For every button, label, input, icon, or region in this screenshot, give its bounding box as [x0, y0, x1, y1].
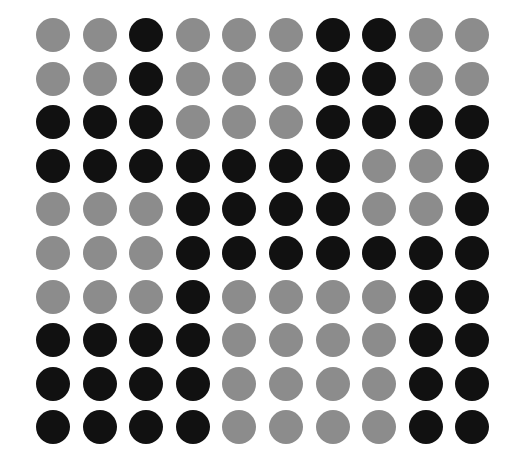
dot-gray: [362, 149, 396, 183]
dot-gray: [316, 280, 350, 314]
dot-black: [83, 323, 117, 357]
dot-black: [83, 410, 117, 444]
dot-black: [409, 236, 443, 270]
dot-black: [176, 280, 210, 314]
dot-gray: [316, 323, 350, 357]
dot-black: [455, 367, 489, 401]
dot-black: [36, 323, 70, 357]
dot-black: [455, 410, 489, 444]
dot-black: [316, 62, 350, 96]
dot-gray: [362, 323, 396, 357]
dot-gray: [409, 149, 443, 183]
dot-black: [36, 367, 70, 401]
dot-gray: [269, 280, 303, 314]
dot-gray: [129, 192, 163, 226]
dot-gray: [269, 323, 303, 357]
dot-black: [129, 323, 163, 357]
dot-black: [83, 367, 117, 401]
dot-gray: [455, 62, 489, 96]
dot-grid: [0, 0, 521, 461]
dot-black: [409, 367, 443, 401]
dot-black: [409, 280, 443, 314]
dot-black: [176, 323, 210, 357]
dot-black: [129, 149, 163, 183]
dot-black: [269, 236, 303, 270]
dot-gray: [362, 280, 396, 314]
dot-black: [455, 149, 489, 183]
dot-gray: [316, 410, 350, 444]
dot-black: [129, 367, 163, 401]
dot-black: [83, 149, 117, 183]
dot-gray: [269, 105, 303, 139]
dot-black: [362, 18, 396, 52]
dot-black: [316, 149, 350, 183]
dot-black: [409, 323, 443, 357]
dot-gray: [36, 236, 70, 270]
dot-gray: [83, 18, 117, 52]
dot-gray: [316, 367, 350, 401]
dot-black: [455, 105, 489, 139]
dot-gray: [222, 105, 256, 139]
dot-black: [455, 192, 489, 226]
dot-black: [176, 149, 210, 183]
dot-gray: [36, 192, 70, 226]
dot-gray: [176, 105, 210, 139]
dot-gray: [222, 280, 256, 314]
dot-black: [129, 62, 163, 96]
dot-black: [316, 236, 350, 270]
dot-black: [362, 105, 396, 139]
dot-gray: [222, 367, 256, 401]
dot-gray: [83, 192, 117, 226]
dot-black: [316, 18, 350, 52]
dot-black: [409, 410, 443, 444]
dot-gray: [409, 62, 443, 96]
dot-gray: [222, 410, 256, 444]
dot-black: [176, 367, 210, 401]
dot-gray: [409, 192, 443, 226]
dot-gray: [36, 18, 70, 52]
dot-black: [176, 410, 210, 444]
dot-gray: [36, 280, 70, 314]
dot-gray: [129, 280, 163, 314]
dot-gray: [362, 410, 396, 444]
dot-black: [129, 105, 163, 139]
dot-gray: [362, 367, 396, 401]
dot-gray: [83, 236, 117, 270]
dot-gray: [269, 62, 303, 96]
dot-black: [83, 105, 117, 139]
dot-gray: [409, 18, 443, 52]
dot-black: [455, 236, 489, 270]
dot-black: [222, 192, 256, 226]
dot-gray: [83, 62, 117, 96]
dot-black: [455, 323, 489, 357]
dot-gray: [222, 323, 256, 357]
dot-black: [129, 410, 163, 444]
dot-black: [455, 280, 489, 314]
dot-gray: [362, 192, 396, 226]
dot-gray: [222, 62, 256, 96]
dot-black: [269, 192, 303, 226]
dot-black: [316, 105, 350, 139]
dot-black: [222, 149, 256, 183]
dot-black: [36, 105, 70, 139]
dot-gray: [83, 280, 117, 314]
dot-gray: [222, 18, 256, 52]
dot-gray: [176, 18, 210, 52]
dot-black: [129, 18, 163, 52]
dot-gray: [36, 62, 70, 96]
dot-gray: [129, 236, 163, 270]
dot-gray: [269, 367, 303, 401]
dot-gray: [455, 18, 489, 52]
dot-gray: [269, 18, 303, 52]
dot-black: [362, 236, 396, 270]
dot-black: [36, 410, 70, 444]
dot-black: [36, 149, 70, 183]
dot-black: [176, 192, 210, 226]
dot-black: [222, 236, 256, 270]
dot-gray: [269, 410, 303, 444]
dot-black: [362, 62, 396, 96]
dot-gray: [176, 62, 210, 96]
dot-black: [409, 105, 443, 139]
dot-black: [176, 236, 210, 270]
dot-black: [316, 192, 350, 226]
